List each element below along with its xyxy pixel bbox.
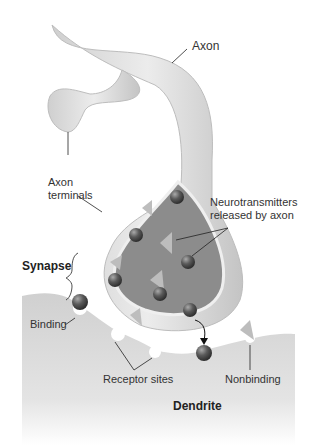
label-synapse: Synapse: [22, 260, 71, 273]
label-neurotransmitters-1: Neurotransmitters: [210, 196, 297, 209]
label-axon-terminals-1: Axon: [48, 176, 73, 189]
axon-branch: [48, 70, 140, 132]
label-neurotransmitters-2: released by axon: [210, 209, 294, 222]
label-dendrite: Dendrite: [173, 400, 222, 413]
label-nonbinding: Nonbinding: [225, 373, 281, 386]
label-binding: Binding: [30, 318, 67, 331]
label-axon-terminals-2: terminals: [48, 189, 93, 202]
label-receptor-sites: Receptor sites: [103, 373, 173, 386]
label-axon: Axon: [192, 40, 219, 53]
